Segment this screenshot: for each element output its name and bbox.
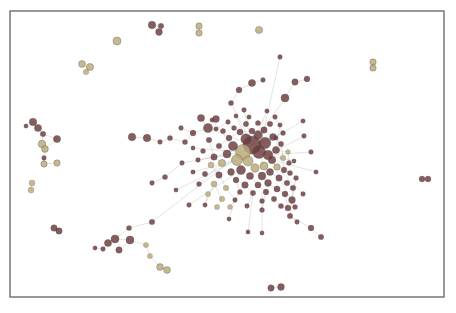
graph-node[interactable]	[228, 141, 237, 150]
graph-node[interactable]	[167, 135, 172, 140]
graph-node[interactable]	[294, 176, 299, 181]
graph-node[interactable]	[157, 264, 164, 271]
graph-node[interactable]	[223, 150, 231, 158]
graph-node[interactable]	[218, 159, 225, 166]
graph-node[interactable]	[211, 181, 217, 187]
graph-node[interactable]	[302, 134, 307, 139]
graph-node[interactable]	[149, 219, 155, 225]
graph-node[interactable]	[260, 199, 265, 204]
graph-node[interactable]	[228, 169, 235, 176]
graph-node[interactable]	[126, 236, 134, 244]
graph-node[interactable]	[101, 247, 106, 252]
graph-node[interactable]	[83, 69, 89, 75]
graph-node[interactable]	[271, 196, 276, 201]
graph-node[interactable]	[268, 285, 274, 291]
graph-node[interactable]	[249, 128, 255, 134]
graph-node[interactable]	[233, 177, 239, 183]
graph-node[interactable]	[234, 114, 238, 118]
graph-node[interactable]	[267, 169, 274, 176]
graph-node[interactable]	[156, 29, 163, 36]
graph-node[interactable]	[255, 120, 260, 125]
graph-node[interactable]	[28, 187, 34, 193]
graph-node[interactable]	[143, 134, 151, 142]
graph-node[interactable]	[219, 196, 225, 202]
graph-node[interactable]	[216, 172, 222, 178]
graph-node[interactable]	[281, 131, 286, 136]
graph-node[interactable]	[314, 170, 319, 175]
graph-node[interactable]	[278, 55, 283, 60]
graph-node[interactable]	[274, 136, 278, 140]
graph-node[interactable]	[259, 137, 271, 149]
graph-node[interactable]	[197, 182, 202, 187]
graph-node[interactable]	[241, 134, 251, 144]
graph-node[interactable]	[419, 176, 425, 182]
graph-node[interactable]	[278, 141, 283, 146]
graph-node[interactable]	[227, 217, 231, 221]
graph-canvas[interactable]	[0, 0, 456, 313]
graph-node[interactable]	[206, 137, 212, 143]
graph-node[interactable]	[246, 172, 253, 179]
graph-node[interactable]	[197, 114, 204, 121]
graph-node[interactable]	[148, 21, 156, 29]
graph-node[interactable]	[261, 127, 267, 133]
graph-node[interactable]	[158, 23, 164, 29]
graph-node[interactable]	[237, 166, 246, 175]
graph-node[interactable]	[278, 203, 283, 208]
graph-node[interactable]	[202, 171, 207, 176]
graph-node[interactable]	[34, 124, 41, 131]
graph-node[interactable]	[245, 204, 250, 209]
graph-node[interactable]	[236, 87, 242, 93]
graph-node[interactable]	[318, 234, 324, 240]
graph-node[interactable]	[226, 135, 232, 141]
graph-node[interactable]	[147, 253, 152, 258]
graph-node[interactable]	[24, 124, 28, 128]
graph-node[interactable]	[41, 161, 47, 167]
graph-node[interactable]	[150, 181, 155, 186]
graph-node[interactable]	[286, 150, 291, 155]
graph-node[interactable]	[265, 109, 270, 114]
graph-node[interactable]	[370, 65, 376, 71]
graph-node[interactable]	[223, 185, 229, 191]
graph-node[interactable]	[247, 115, 252, 120]
graph-node[interactable]	[196, 30, 202, 36]
graph-node[interactable]	[164, 267, 171, 274]
graph-node[interactable]	[116, 247, 122, 253]
graph-node[interactable]	[128, 133, 136, 141]
graph-node[interactable]	[237, 189, 242, 194]
graph-node[interactable]	[143, 242, 148, 247]
graph-node[interactable]	[190, 130, 196, 136]
graph-node[interactable]	[53, 135, 60, 142]
graph-node[interactable]	[242, 182, 249, 189]
graph-node[interactable]	[243, 156, 253, 166]
graph-node[interactable]	[261, 78, 266, 83]
graph-node[interactable]	[42, 156, 47, 161]
graph-node[interactable]	[93, 246, 97, 250]
graph-node[interactable]	[191, 146, 195, 150]
graph-node[interactable]	[278, 123, 283, 128]
graph-node[interactable]	[205, 191, 210, 196]
graph-node[interactable]	[232, 126, 237, 131]
graph-node[interactable]	[113, 37, 121, 45]
graph-node[interactable]	[281, 94, 289, 102]
graph-node[interactable]	[232, 155, 243, 166]
graph-node[interactable]	[29, 180, 35, 186]
graph-node[interactable]	[242, 108, 247, 113]
graph-node[interactable]	[425, 176, 431, 182]
graph-node[interactable]	[287, 170, 292, 175]
graph-node[interactable]	[29, 118, 37, 126]
graph-node[interactable]	[251, 164, 259, 172]
graph-node[interactable]	[295, 220, 300, 225]
graph-node[interactable]	[293, 205, 298, 210]
graph-node[interactable]	[243, 121, 248, 126]
graph-node[interactable]	[179, 126, 184, 131]
graph-node[interactable]	[191, 170, 196, 175]
graph-node[interactable]	[203, 123, 212, 132]
graph-node[interactable]	[220, 128, 225, 133]
graph-node[interactable]	[268, 156, 276, 164]
graph-node[interactable]	[287, 213, 293, 219]
graph-node[interactable]	[237, 129, 243, 135]
graph-node[interactable]	[309, 150, 314, 155]
graph-node[interactable]	[276, 175, 282, 181]
graph-node[interactable]	[248, 79, 255, 86]
graph-node[interactable]	[250, 190, 255, 195]
